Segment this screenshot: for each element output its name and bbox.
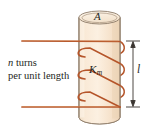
area-label: A <box>94 10 101 22</box>
solenoid-figure: A Km l n turns per unit length <box>0 0 162 134</box>
turns-word: turns <box>13 57 37 68</box>
core-permeability-label: Km <box>89 63 102 75</box>
turns-line-2: per unit length <box>8 70 69 83</box>
core-subscript: m <box>97 68 102 77</box>
turns-density-label: n turns per unit length <box>8 57 69 83</box>
turns-line-1: n turns <box>8 57 69 70</box>
length-label: l <box>137 63 140 76</box>
core-symbol: K <box>89 63 96 75</box>
